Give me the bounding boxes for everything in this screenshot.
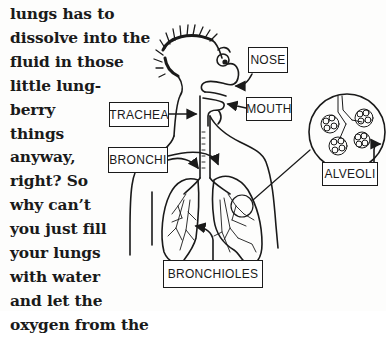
nose-shape [201, 64, 238, 92]
trachea-tube [200, 96, 210, 178]
label-nose: NOSE [248, 47, 288, 73]
right-lung [213, 176, 263, 264]
label-bronchi: BRONCHI [108, 147, 168, 173]
alveoli-clusters [321, 96, 373, 155]
label-alveoli: ALVEOLI [322, 162, 378, 186]
text-line: oxygen from the [10, 314, 330, 337]
mouth-shape [203, 92, 226, 126]
label-trachea: TRACHEA [109, 102, 169, 127]
label-mouth: MOUTH [246, 97, 292, 121]
label-bronchioles: BRONCHIOLES [163, 260, 263, 288]
left-lung [162, 179, 199, 263]
eye-icon [217, 54, 229, 66]
hair-icon [154, 25, 217, 77]
head-outline [174, 40, 222, 136]
